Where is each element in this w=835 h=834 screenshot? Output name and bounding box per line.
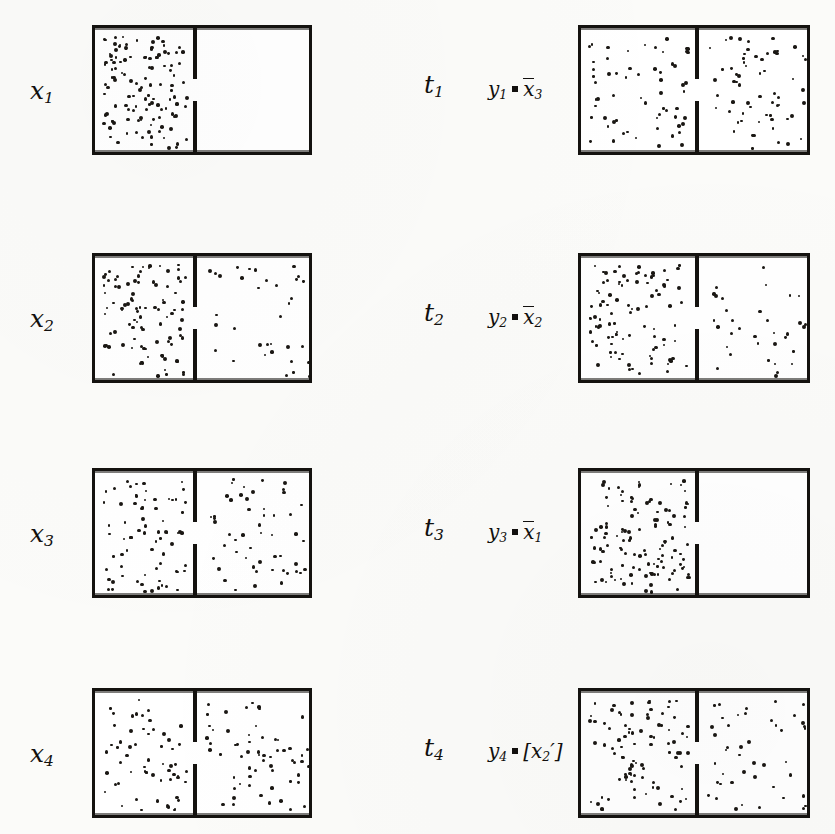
- particle-dot: [113, 487, 116, 490]
- particle-dot: [224, 710, 228, 714]
- particle-dot: [630, 774, 633, 777]
- particle-dot: [592, 61, 594, 63]
- particle-dot: [685, 798, 687, 800]
- particle-dot: [117, 782, 120, 785]
- particle-dot: [594, 265, 596, 267]
- particle-dot: [601, 483, 605, 487]
- particle-dot: [116, 746, 119, 749]
- particle-dot: [773, 332, 776, 335]
- particle-dot: [112, 76, 115, 79]
- particle-dot: [288, 747, 292, 751]
- particle-dot: [301, 754, 303, 756]
- particle-dot: [721, 297, 724, 300]
- particle-dot: [716, 94, 719, 97]
- wall-bottom: [95, 813, 309, 815]
- particle-dot: [154, 283, 158, 287]
- particle-dot: [674, 116, 677, 119]
- particle-dot: [215, 314, 218, 317]
- particle-dot: [677, 286, 681, 290]
- particle-dot: [713, 704, 716, 707]
- particle-dot: [593, 561, 596, 564]
- particle-dot: [631, 731, 635, 735]
- particle-dot: [173, 309, 176, 312]
- particle-dot: [136, 580, 140, 584]
- particle-dot: [677, 124, 681, 128]
- particle-dot: [620, 578, 623, 581]
- particle-dot: [120, 307, 124, 311]
- particle-dot: [297, 773, 300, 776]
- particle-dot: [786, 118, 788, 120]
- particle-dot: [674, 340, 676, 342]
- particle-dot: [128, 745, 132, 749]
- particle-dot: [746, 101, 750, 105]
- particle-dot: [150, 101, 154, 105]
- particle-dot: [649, 743, 653, 747]
- particle-dot: [718, 703, 722, 707]
- particle-dot: [610, 312, 614, 316]
- particle-dot: [771, 37, 775, 41]
- particle-dot: [279, 555, 282, 558]
- particle-dot: [786, 142, 790, 146]
- particle-dot: [628, 731, 631, 734]
- particle-dot: [774, 700, 777, 703]
- particle-dot: [181, 511, 184, 514]
- particle-dot: [283, 481, 287, 485]
- particle-dot: [596, 802, 600, 806]
- particle-dot: [308, 375, 311, 378]
- particle-dot: [658, 113, 661, 116]
- particle-dot: [127, 95, 131, 99]
- particle-dot: [141, 714, 144, 717]
- particle-dot: [622, 582, 626, 586]
- particle-dot: [210, 516, 212, 518]
- particle-dot: [174, 808, 177, 811]
- particle-dot: [137, 281, 140, 284]
- row-label-right-1: y1x3: [488, 78, 542, 102]
- particle-dot: [666, 279, 669, 282]
- particle-dot: [753, 335, 757, 339]
- particle-dot: [234, 744, 236, 746]
- particle-dot: [177, 268, 180, 271]
- particle-dot: [778, 104, 780, 106]
- particle-dot: [170, 312, 174, 316]
- particle-dot: [170, 84, 174, 88]
- particle-dot: [605, 581, 608, 584]
- partition-upper: [695, 691, 699, 742]
- particle-dot: [625, 779, 627, 781]
- particle-dot: [739, 745, 743, 749]
- particle-dot: [611, 336, 613, 338]
- particle-dot: [770, 719, 773, 722]
- particle-dot: [644, 274, 647, 277]
- particle-dot: [752, 761, 756, 765]
- particle-dot: [154, 507, 157, 510]
- row-label-time-2: t2: [424, 300, 444, 329]
- particle-dot: [652, 348, 656, 352]
- particle-dot: [647, 562, 651, 566]
- particle-dot: [207, 703, 210, 706]
- particle-dot: [301, 345, 304, 348]
- particle-dot: [644, 553, 647, 556]
- particle-dot: [685, 365, 687, 367]
- particle-dot: [652, 781, 655, 784]
- particle-dot: [621, 500, 623, 502]
- particle-dot: [608, 293, 612, 297]
- particle-dot: [798, 321, 802, 325]
- particle-dot: [602, 480, 606, 484]
- particle-dot: [141, 506, 144, 509]
- particle-dot: [614, 351, 618, 355]
- bracket-close: ]: [555, 739, 563, 763]
- particle-dot: [112, 61, 116, 65]
- particle-dot: [759, 72, 762, 75]
- particle-dot: [678, 131, 681, 134]
- particle-dot: [643, 549, 646, 552]
- particle-dot: [599, 560, 602, 563]
- partition-lower: [193, 544, 197, 595]
- particle-dot: [775, 724, 778, 727]
- particle-dot: [147, 130, 151, 134]
- particle-dot: [605, 496, 608, 499]
- particle-dot: [715, 797, 718, 800]
- partition-upper: [193, 256, 197, 307]
- wall-top: [95, 471, 309, 473]
- particle-dot: [262, 759, 265, 762]
- particle-dot: [659, 548, 661, 550]
- particle-dot: [232, 360, 235, 363]
